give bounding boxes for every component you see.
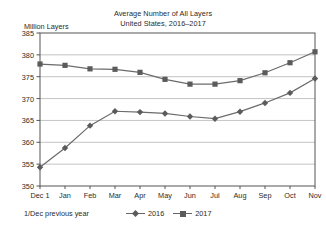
- data-point-2017: [162, 77, 167, 82]
- data-point-2017: [62, 63, 67, 68]
- data-point-2016: [237, 108, 243, 114]
- legend-entry-2017: 2017: [173, 209, 211, 218]
- data-point-2016: [112, 108, 118, 114]
- data-point-2016: [187, 113, 193, 119]
- plot-area: 350355360365370375380385 Dec 1JanFebMarA…: [0, 0, 326, 229]
- chart-footnote: 1/Dec previous year: [24, 209, 89, 218]
- legend-marker-square-icon: [173, 209, 192, 218]
- data-point-2017: [187, 82, 192, 87]
- x-tick-label: May: [158, 191, 172, 200]
- data-point-2017: [262, 70, 267, 75]
- data-point-2017: [237, 78, 242, 83]
- data-point-2016: [162, 110, 168, 116]
- data-point-2016: [312, 75, 318, 81]
- x-tick-label: Jul: [210, 191, 219, 200]
- x-tick-label: Jun: [184, 191, 196, 200]
- legend-marker-diamond-icon: [126, 209, 145, 218]
- x-tick-label: Apr: [134, 191, 145, 200]
- data-point-2016: [212, 115, 218, 121]
- legend-label: 2017: [195, 209, 211, 218]
- data-point-2017: [137, 70, 142, 75]
- data-point-2017: [312, 49, 317, 54]
- data-point-2017: [112, 67, 117, 72]
- data-point-2016: [287, 90, 293, 96]
- y-tick-label: 370: [10, 95, 34, 104]
- y-tick-label: 380: [10, 51, 34, 60]
- y-tick-label: 365: [10, 117, 34, 126]
- data-point-2017: [87, 66, 92, 71]
- y-tick-label: 355: [10, 160, 34, 169]
- data-point-2016: [137, 109, 143, 115]
- x-tick-label: Aug: [234, 191, 247, 200]
- series-line-2016: [40, 78, 315, 167]
- y-tick-label: 360: [10, 138, 34, 147]
- data-point-2016: [262, 100, 268, 106]
- y-tick-label: 375: [10, 73, 34, 82]
- legend-label: 2016: [148, 209, 164, 218]
- x-tick-label: Nov: [309, 191, 322, 200]
- data-point-2017: [212, 82, 217, 87]
- x-tick-label: Feb: [84, 191, 97, 200]
- series-line-2017: [40, 52, 315, 84]
- plot-frame: [40, 33, 315, 186]
- y-tick-label: 385: [10, 29, 34, 38]
- x-tick-label: Oct: [284, 191, 295, 200]
- x-tick-label: Mar: [109, 191, 122, 200]
- data-point-2017: [287, 60, 292, 65]
- x-tick-label: Jan: [59, 191, 71, 200]
- data-point-2017: [37, 61, 42, 66]
- x-tick-label: Sep: [259, 191, 272, 200]
- chart-container: Average Number of All Layers United Stat…: [0, 0, 326, 229]
- x-tick-label: Dec 1: [30, 191, 49, 200]
- chart-legend: 20162017: [126, 209, 211, 218]
- y-tick-label: 350: [10, 182, 34, 191]
- legend-entry-2016: 2016: [126, 209, 164, 218]
